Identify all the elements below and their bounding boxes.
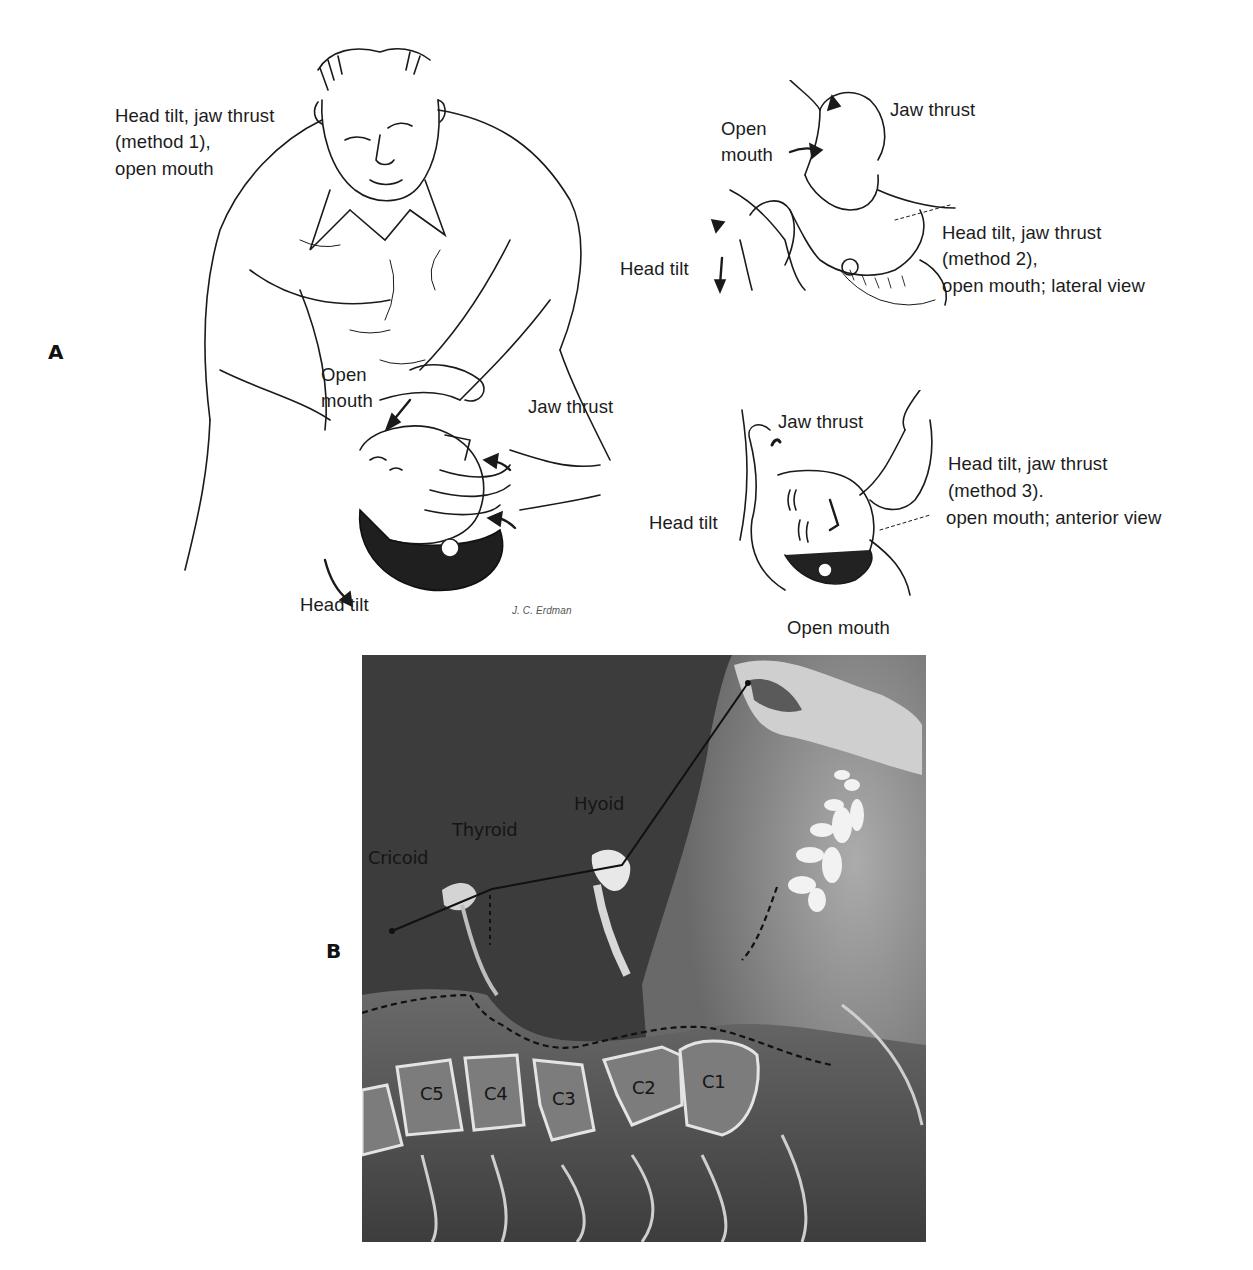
method1-illustration <box>180 40 640 620</box>
method2-open-mouth-line2: mouth <box>721 144 773 166</box>
method2-caption-line2: (method 2), <box>942 248 1038 270</box>
panel-label-a: A <box>48 340 63 364</box>
label-thyroid: Thyroid <box>452 819 517 840</box>
method3-jaw-thrust: Jaw thrust <box>778 411 863 433</box>
method3-open-mouth: Open mouth <box>787 617 890 639</box>
label-c5: C5 <box>420 1083 443 1104</box>
method1-head-tilt: Head tilt <box>300 594 369 616</box>
method2-open-mouth-line1: Open <box>721 118 767 140</box>
label-cricoid: Cricoid <box>368 847 428 868</box>
artist-signature: J. C. Erdman <box>512 600 572 622</box>
method3-caption-line3: open mouth; anterior view <box>946 507 1161 529</box>
xray-image <box>362 655 926 1242</box>
method3-caption-line2: (method 3). <box>948 480 1044 502</box>
method2-jaw-thrust: Jaw thrust <box>890 99 975 121</box>
panel-label-b: B <box>326 939 341 963</box>
method2-caption-line1: Head tilt, jaw thrust <box>942 222 1101 244</box>
method2-head-tilt: Head tilt <box>620 258 689 280</box>
method1-open-mouth-line2: mouth <box>321 390 373 412</box>
method3-head-tilt: Head tilt <box>649 512 718 534</box>
label-c1: C1 <box>702 1071 725 1092</box>
method1-jaw-thrust: Jaw thrust <box>528 396 613 418</box>
lateral-neck-xray: Cricoid Thyroid Hyoid C5 C4 C3 C2 C1 <box>362 655 926 1242</box>
label-c3: C3 <box>552 1088 575 1109</box>
method1-open-mouth-line1: Open <box>321 364 367 386</box>
label-c4: C4 <box>484 1083 507 1104</box>
label-hyoid: Hyoid <box>574 793 624 814</box>
method3-caption-line1: Head tilt, jaw thrust <box>948 453 1107 475</box>
method2-caption-line3: open mouth; lateral view <box>942 275 1145 297</box>
label-c2: C2 <box>632 1077 655 1098</box>
